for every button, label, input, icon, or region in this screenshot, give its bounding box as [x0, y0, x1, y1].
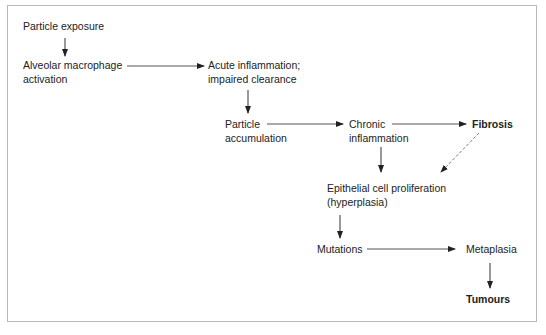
node-particle-exposure: Particle exposure	[23, 19, 104, 33]
node-epithelial-proliferation: Epithelial cell proliferation (hyperplas…	[327, 181, 446, 209]
node-chronic-inflammation: Chronic inflammation	[349, 117, 409, 145]
node-label: Metaplasia	[466, 242, 517, 256]
node-label-line1: Particle	[225, 117, 287, 131]
node-label-line2: impaired clearance	[208, 72, 300, 86]
node-label-line2: activation	[23, 72, 122, 86]
node-label: Particle exposure	[23, 19, 104, 33]
node-label-line1: Chronic	[349, 117, 409, 131]
node-label: Fibrosis	[472, 117, 513, 131]
arrow-fibrosis-to-epithelial-dashed	[441, 133, 479, 172]
node-particle-accumulation: Particle accumulation	[225, 117, 287, 145]
node-label-line2: inflammation	[349, 131, 409, 145]
node-label-line2: (hyperplasia)	[327, 195, 446, 209]
node-acute-inflammation: Acute inflammation; impaired clearance	[208, 58, 300, 86]
node-label-line1: Alveolar macrophage	[23, 58, 122, 72]
node-label-line2: accumulation	[225, 131, 287, 145]
node-label: Tumours	[466, 292, 510, 306]
node-label-line1: Epithelial cell proliferation	[327, 181, 446, 195]
node-metaplasia: Metaplasia	[466, 242, 517, 256]
node-tumours: Tumours	[466, 292, 510, 306]
node-label: Mutations	[317, 242, 363, 256]
diagram-arrows	[0, 0, 546, 335]
node-mutations: Mutations	[317, 242, 363, 256]
node-alveolar-macrophage: Alveolar macrophage activation	[23, 58, 122, 86]
node-fibrosis: Fibrosis	[472, 117, 513, 131]
node-label-line1: Acute inflammation;	[208, 58, 300, 72]
